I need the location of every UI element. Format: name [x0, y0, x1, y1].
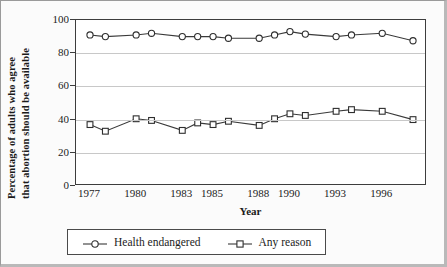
y-tick-mark	[70, 119, 75, 120]
y-axis-title: Percentage of adults who agree that abor…	[3, 9, 43, 199]
x-tick-label: 1985	[201, 187, 223, 199]
circle-marker-icon	[82, 236, 108, 248]
y-tick-label: 40	[39, 114, 69, 125]
y-tick-label: 100	[39, 14, 69, 25]
y-tick-label: 20	[39, 147, 69, 158]
x-axis-ticks: 19771980198319851988199019931996	[75, 185, 426, 207]
legend-label: Any reason	[259, 236, 312, 248]
y-tick-mark	[70, 85, 75, 86]
x-axis-title: Year	[75, 205, 426, 217]
legend-entry: Health endangered	[82, 236, 201, 248]
legend-label: Health endangered	[114, 236, 201, 248]
x-tick-label: 1980	[124, 187, 146, 199]
y-tick-label: 60	[39, 80, 69, 91]
y-tick-label: 80	[39, 47, 69, 58]
x-tick-label: 1993	[324, 187, 346, 199]
y-tick-label: 0	[39, 180, 69, 191]
chart-legend: Health endangeredAny reason	[67, 229, 326, 255]
y-axis-title-line2: that abortion should be available	[20, 48, 31, 199]
y-axis-ticks: 020406080100	[75, 19, 426, 185]
y-axis-title-line1: Percentage of adults who agree	[6, 57, 17, 199]
chart-figure: Percentage of adults who agree that abor…	[0, 0, 447, 267]
y-tick-mark	[70, 152, 75, 153]
legend-entry: Any reason	[227, 236, 312, 248]
y-tick-mark	[70, 19, 75, 20]
x-tick-label: 1996	[370, 187, 392, 199]
y-tick-mark	[70, 52, 75, 53]
x-tick-label: 1983	[170, 187, 192, 199]
square-marker-icon	[227, 236, 253, 248]
x-tick-label: 1977	[78, 187, 100, 199]
x-tick-label: 1988	[247, 187, 269, 199]
x-tick-label: 1990	[278, 187, 300, 199]
